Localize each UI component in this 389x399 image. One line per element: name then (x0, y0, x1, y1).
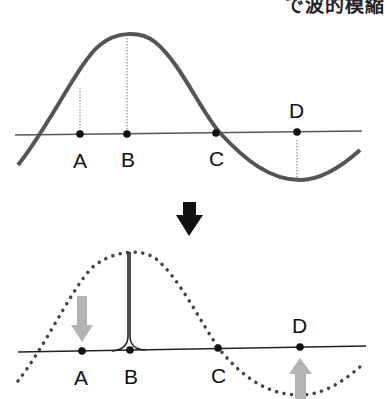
label-b: B (121, 148, 135, 171)
arrow-down-at-a-icon (71, 296, 93, 342)
point-a (76, 130, 84, 138)
equilibrium-line (18, 346, 366, 352)
arrow-up-at-d-icon (289, 358, 312, 399)
label-a: A (74, 366, 88, 389)
spike-shape (112, 252, 146, 351)
label-c: C (209, 147, 224, 170)
label-c: C (211, 364, 226, 387)
label-d: D (289, 99, 304, 122)
label-d: D (292, 314, 307, 337)
point-b (126, 346, 134, 354)
equilibrium-axis (15, 131, 362, 135)
down-arrow-icon (176, 202, 203, 236)
label-b: B (124, 365, 138, 388)
point-d (296, 343, 304, 351)
bottom-panel: A B C D (18, 252, 366, 399)
point-c (212, 129, 220, 137)
point-c (214, 344, 222, 352)
point-d (293, 128, 301, 136)
point-a (78, 347, 86, 355)
point-b (123, 130, 131, 138)
top-panel: A B C D (15, 34, 362, 180)
wave-diagram: A B C D A B C D (0, 0, 389, 399)
label-a: A (73, 149, 87, 172)
wave-curve (18, 34, 360, 180)
